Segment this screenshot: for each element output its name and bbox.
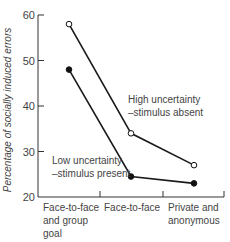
filled-circle-marker [191, 181, 197, 187]
series-labels: High uncertainty–stimulus absentLow unce… [52, 94, 203, 179]
y-tick-label: 50 [23, 55, 35, 67]
series-label: Low uncertainty [52, 155, 122, 166]
x-category-label: Private and [168, 202, 219, 213]
y-tick-label: 20 [23, 191, 35, 203]
series-label: –stimulus present [52, 168, 131, 179]
series-line [69, 70, 194, 184]
x-category-label: Face-to-face [43, 202, 100, 213]
line-chart: Percentage of socially induced errors 20… [0, 0, 230, 242]
y-tick-label: 60 [23, 9, 35, 21]
y-ticks: 2030405060 [23, 9, 44, 203]
open-circle-marker [66, 21, 72, 27]
series-label: High uncertainty [128, 94, 200, 105]
x-ticks: Face-to-faceand groupgoalFace-to-facePri… [43, 191, 224, 239]
x-category-label: anonymous [168, 215, 220, 226]
open-circle-marker [191, 162, 197, 168]
series-label: –stimulus absent [128, 107, 203, 118]
x-category-label: and group [43, 215, 88, 226]
open-circle-marker [128, 131, 134, 137]
y-axis-label: Percentage of socially induced errors [2, 28, 13, 193]
x-category-label: Face-to-face [104, 202, 161, 213]
x-category-label: goal [43, 228, 62, 239]
y-tick-label: 40 [23, 100, 35, 112]
filled-circle-marker [66, 67, 72, 73]
y-tick-label: 30 [23, 146, 35, 158]
